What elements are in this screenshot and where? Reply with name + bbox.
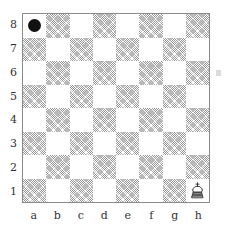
board-square-h1[interactable] — [186, 179, 209, 203]
board-square-c8[interactable] — [70, 14, 93, 38]
board-square-e3[interactable] — [116, 132, 139, 156]
file-label-h: h — [187, 205, 211, 225]
file-label-d: d — [93, 205, 117, 225]
file-label-c: c — [69, 205, 93, 225]
black-marker-dot-icon — [28, 19, 41, 32]
board-square-f2[interactable] — [139, 155, 162, 179]
board-square-b7[interactable] — [46, 38, 69, 62]
board-square-d1[interactable] — [93, 179, 116, 203]
file-label-row: abcdefgh — [22, 205, 210, 225]
board-square-e4[interactable] — [116, 108, 139, 132]
board-square-h7[interactable] — [186, 38, 209, 62]
file-label-a: a — [22, 205, 46, 225]
board-square-f3[interactable] — [139, 132, 162, 156]
board-square-h3[interactable] — [186, 132, 209, 156]
board-square-f1[interactable] — [139, 179, 162, 203]
board-square-g3[interactable] — [163, 132, 186, 156]
board-square-c3[interactable] — [70, 132, 93, 156]
board-square-a2[interactable] — [23, 155, 46, 179]
rank-label-8: 8 — [6, 13, 21, 37]
rank-label-2: 2 — [6, 156, 21, 180]
board-square-d4[interactable] — [93, 108, 116, 132]
board-square-d6[interactable] — [93, 61, 116, 85]
board-square-h8[interactable] — [186, 14, 209, 38]
board-square-a3[interactable] — [23, 132, 46, 156]
chessboard-grid — [23, 14, 209, 202]
board-square-a1[interactable] — [23, 179, 46, 203]
file-label-b: b — [46, 205, 70, 225]
board-square-c6[interactable] — [70, 61, 93, 85]
board-square-d5[interactable] — [93, 85, 116, 109]
file-label-e: e — [116, 205, 140, 225]
board-square-f8[interactable] — [139, 14, 162, 38]
board-square-c2[interactable] — [70, 155, 93, 179]
board-square-g5[interactable] — [163, 85, 186, 109]
board-square-e8[interactable] — [116, 14, 139, 38]
board-square-g4[interactable] — [163, 108, 186, 132]
board-square-g1[interactable] — [163, 179, 186, 203]
white-king-icon — [188, 181, 207, 200]
board-square-b8[interactable] — [46, 14, 69, 38]
board-square-f5[interactable] — [139, 85, 162, 109]
board-square-b4[interactable] — [46, 108, 69, 132]
rank-label-column: 87654321 — [6, 13, 21, 203]
board-square-a7[interactable] — [23, 38, 46, 62]
chess-diagram: 87654321 abcdefgh — [0, 0, 229, 234]
board-square-b3[interactable] — [46, 132, 69, 156]
board-square-d3[interactable] — [93, 132, 116, 156]
board-square-d2[interactable] — [93, 155, 116, 179]
board-square-g8[interactable] — [163, 14, 186, 38]
board-square-b5[interactable] — [46, 85, 69, 109]
board-square-e5[interactable] — [116, 85, 139, 109]
piece-a8 — [23, 14, 46, 38]
board-square-f7[interactable] — [139, 38, 162, 62]
board-square-b1[interactable] — [46, 179, 69, 203]
board-square-e1[interactable] — [116, 179, 139, 203]
board-square-e6[interactable] — [116, 61, 139, 85]
board-square-a8[interactable] — [23, 14, 46, 38]
board-square-f6[interactable] — [139, 61, 162, 85]
board-square-g7[interactable] — [163, 38, 186, 62]
board-square-b6[interactable] — [46, 61, 69, 85]
piece-h1 — [186, 179, 209, 203]
board-square-a4[interactable] — [23, 108, 46, 132]
board-square-a6[interactable] — [23, 61, 46, 85]
rank-label-5: 5 — [6, 84, 21, 108]
file-label-f: f — [140, 205, 164, 225]
board-square-b2[interactable] — [46, 155, 69, 179]
board-square-h2[interactable] — [186, 155, 209, 179]
board-square-c1[interactable] — [70, 179, 93, 203]
board-square-h6[interactable] — [186, 61, 209, 85]
chessboard — [22, 13, 210, 203]
rank-label-3: 3 — [6, 132, 21, 156]
board-square-c4[interactable] — [70, 108, 93, 132]
rank-label-6: 6 — [6, 61, 21, 85]
board-square-h4[interactable] — [186, 108, 209, 132]
board-square-c7[interactable] — [70, 38, 93, 62]
board-square-c5[interactable] — [70, 85, 93, 109]
board-square-a5[interactable] — [23, 85, 46, 109]
rank-label-7: 7 — [6, 37, 21, 61]
board-square-g6[interactable] — [163, 61, 186, 85]
board-square-h5[interactable] — [186, 85, 209, 109]
file-label-g: g — [163, 205, 187, 225]
scan-artifact-mark — [216, 70, 221, 76]
board-square-d8[interactable] — [93, 14, 116, 38]
board-square-g2[interactable] — [163, 155, 186, 179]
rank-label-4: 4 — [6, 108, 21, 132]
board-square-e7[interactable] — [116, 38, 139, 62]
rank-label-1: 1 — [6, 179, 21, 203]
board-square-d7[interactable] — [93, 38, 116, 62]
board-square-f4[interactable] — [139, 108, 162, 132]
board-square-e2[interactable] — [116, 155, 139, 179]
